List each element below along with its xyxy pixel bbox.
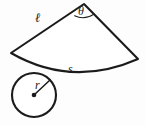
radius-label: r (35, 79, 40, 91)
arc-length-label: s (68, 63, 73, 75)
circle-center-dot (32, 93, 37, 98)
sector-shape (11, 4, 138, 72)
geometry-figure: ℓ θ s r (0, 0, 145, 126)
angle-label: θ (78, 5, 84, 17)
slant-side-label: ℓ (35, 11, 40, 24)
